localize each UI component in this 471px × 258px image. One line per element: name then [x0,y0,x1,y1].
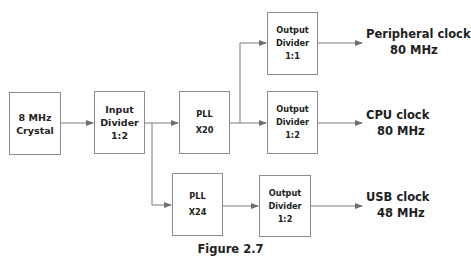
output-divider-cpu-block: Output Divider 1:2 [267,91,318,154]
pll-x20-line1: PLL [196,108,212,121]
cpu-clock-freq: 80 MHz [366,123,429,139]
out-div-usb-ratio: 1:2 [278,213,293,226]
crystal-line1: 8 MHz [19,111,52,124]
crystal-block: 8 MHz Crystal [9,92,61,155]
usb-clock-label: USB clock 48 MHz [366,189,430,221]
pll-x24-block: PLL X24 [172,173,223,236]
usb-clock-freq: 48 MHz [366,205,430,221]
input-divider-line1: Input [105,103,133,116]
cpu-clock-name: CPU clock [366,108,429,122]
cpu-clock-label: CPU clock 80 MHz [366,107,429,139]
input-divider-ratio: 1:2 [111,129,128,142]
out-div-cpu-line1: Output [276,103,308,116]
arrow-pll-x20-to-peripheral-divider [240,43,266,123]
out-div-usb-line1: Output [269,187,301,200]
out-div-peripheral-line2: Divider [276,37,309,50]
output-divider-peripheral-block: Output Divider 1:1 [267,12,318,75]
crystal-line2: Crystal [16,124,54,137]
peripheral-clock-name: Peripheral clock [366,27,471,41]
out-div-usb-line2: Divider [268,200,301,213]
pll-x20-block: PLL X20 [179,91,230,154]
pll-x24-line1: PLL [189,190,205,203]
pll-x24-multiplier: X24 [189,206,207,219]
peripheral-clock-freq: 80 MHz [366,42,471,58]
out-div-cpu-ratio: 1:2 [285,129,300,142]
figure-caption: Figure 2.7 [0,242,461,256]
pll-x20-multiplier: X20 [196,124,214,137]
input-divider-line2: Divider [100,116,139,129]
out-div-peripheral-ratio: 1:1 [285,50,300,63]
peripheral-clock-label: Peripheral clock 80 MHz [366,26,471,58]
arrow-input-divider-to-pll-x24 [152,123,171,205]
input-divider-block: Input Divider 1:2 [94,91,145,154]
out-div-cpu-line2: Divider [276,116,309,129]
usb-clock-name: USB clock [366,190,430,204]
output-divider-usb-block: Output Divider 1:2 [259,175,311,237]
out-div-peripheral-line1: Output [276,24,308,37]
